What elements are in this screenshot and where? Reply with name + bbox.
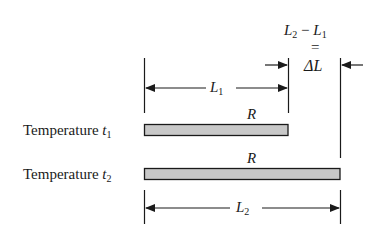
- l1-label: L1: [210, 80, 223, 97]
- l2-label: L2: [236, 200, 249, 217]
- rod-label-t2: R: [247, 151, 256, 166]
- rod-label-t1: R: [247, 107, 256, 122]
- delta-result: ΔL: [304, 58, 322, 74]
- temperature-label-t2: Temperature t2: [23, 167, 112, 184]
- delta-expression: L2 − L1: [284, 23, 327, 40]
- delta-equals: =: [311, 40, 319, 55]
- rod-bar-t1: [145, 125, 289, 136]
- temperature-label-t1: Temperature t1: [23, 123, 112, 140]
- rod-bar-t2: [145, 169, 341, 180]
